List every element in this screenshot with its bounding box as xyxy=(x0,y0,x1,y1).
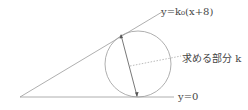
line-tangent-slanted xyxy=(20,12,162,97)
label-circle-k: 求める部分 k xyxy=(182,50,241,65)
circle xyxy=(105,31,171,97)
radius-dotted-line xyxy=(130,56,181,66)
label-x-axis: y=0 xyxy=(178,91,198,102)
label-tangent-line: y=k₀(x+8) xyxy=(161,6,213,17)
diameter-arrow xyxy=(121,35,137,96)
arrowhead-bottom-icon xyxy=(135,92,139,97)
